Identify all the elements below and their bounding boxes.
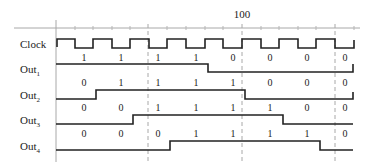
svg-text:0: 0: [343, 77, 348, 88]
signal-labels: Clock Out1 Out2 Out3 Out4: [20, 38, 47, 155]
out3-values: 0 0 1 1 1 1 0 0: [82, 102, 348, 113]
svg-text:1: 1: [268, 128, 273, 139]
svg-text:1: 1: [156, 52, 161, 63]
out2-values: 0 1 1 1 1 0 0 0: [82, 77, 348, 88]
label-out1: Out1: [20, 63, 41, 78]
svg-text:0: 0: [156, 128, 161, 139]
out4-values: 0 0 0 1 1 1 1 0: [82, 128, 348, 139]
svg-text:0: 0: [119, 102, 124, 113]
svg-text:1: 1: [82, 52, 87, 63]
svg-text:1: 1: [194, 102, 199, 113]
label-out2: Out2: [20, 89, 41, 104]
svg-text:1: 1: [194, 128, 199, 139]
out3-waveform: [56, 115, 353, 124]
timing-diagram: 100 Clock Out1 Out2 Out3 Out4 1 1 1 1 0 …: [0, 0, 375, 168]
out1-values: 1 1 1 1 0 0 0 0: [82, 52, 348, 63]
svg-text:1: 1: [231, 128, 236, 139]
out4-waveform: [56, 141, 353, 150]
label-clock: Clock: [20, 38, 47, 50]
svg-text:0: 0: [305, 52, 310, 63]
svg-text:0: 0: [119, 128, 124, 139]
svg-text:1: 1: [305, 128, 310, 139]
svg-text:1: 1: [231, 77, 236, 88]
label-out4: Out4: [20, 140, 41, 155]
svg-text:1: 1: [194, 77, 199, 88]
svg-text:0: 0: [343, 52, 348, 63]
clock-waveform: [57, 39, 354, 48]
svg-text:0: 0: [268, 52, 273, 63]
svg-text:0: 0: [82, 102, 87, 113]
svg-text:1: 1: [156, 102, 161, 113]
svg-text:0: 0: [268, 77, 273, 88]
svg-text:1: 1: [268, 102, 273, 113]
svg-text:0: 0: [82, 77, 87, 88]
svg-text:0: 0: [305, 102, 310, 113]
svg-text:1: 1: [119, 52, 124, 63]
axis-label-100: 100: [234, 8, 251, 20]
svg-text:1: 1: [231, 102, 236, 113]
out1-waveform: [56, 64, 353, 72]
out2-waveform: [56, 90, 353, 99]
svg-text:0: 0: [82, 128, 87, 139]
svg-text:0: 0: [305, 77, 310, 88]
svg-text:0: 0: [343, 102, 348, 113]
svg-text:1: 1: [119, 77, 124, 88]
svg-text:1: 1: [194, 52, 199, 63]
svg-text:0: 0: [231, 52, 236, 63]
svg-text:0: 0: [343, 128, 348, 139]
label-out3: Out3: [20, 114, 41, 129]
svg-text:1: 1: [156, 77, 161, 88]
